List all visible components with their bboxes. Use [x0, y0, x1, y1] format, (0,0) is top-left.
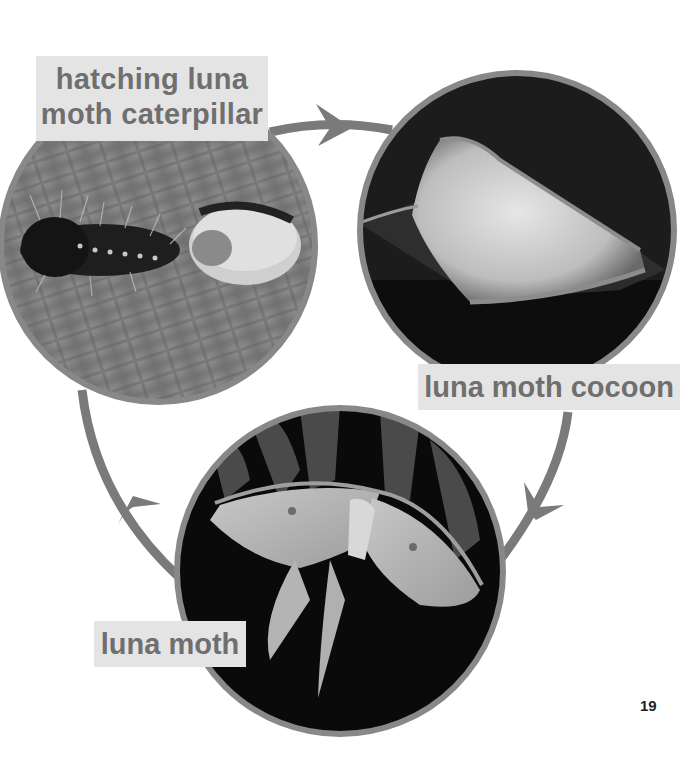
- photo-moth: [170, 400, 510, 745]
- stage-label-caterpillar: hatching luna moth caterpillar: [36, 56, 268, 141]
- page-number: 19: [640, 697, 657, 714]
- stage-label-moth: luna moth: [94, 621, 246, 667]
- stage-label-caterpillar-line2: moth caterpillar: [36, 97, 268, 132]
- arrow-moth-to-caterpillar: [82, 390, 180, 578]
- arrow-cocoon-to-moth: [500, 412, 568, 560]
- stage-label-caterpillar-line1: hatching luna: [36, 62, 268, 97]
- book-page: hatching luna moth caterpillar luna moth…: [0, 0, 696, 761]
- stage-label-cocoon: luna moth cocoon: [418, 364, 680, 410]
